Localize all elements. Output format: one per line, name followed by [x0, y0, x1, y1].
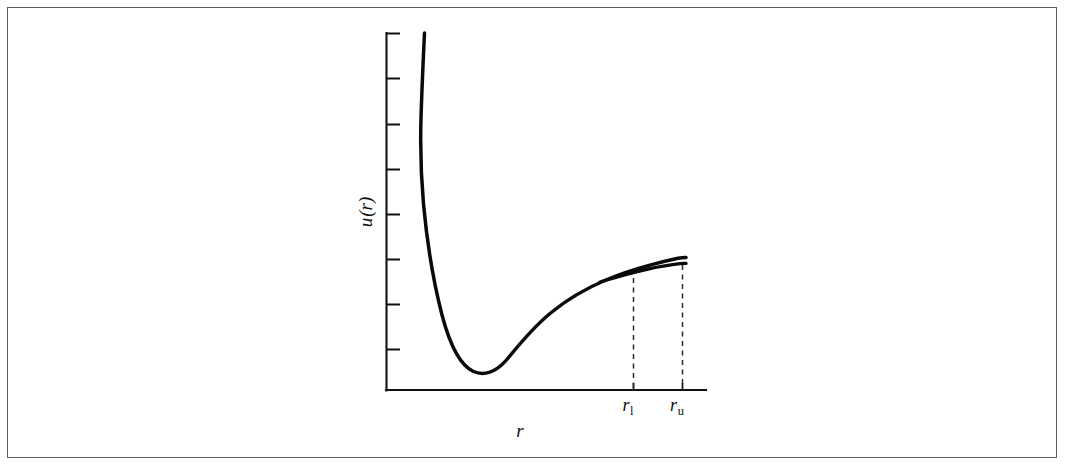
y-axis-label-group: u(r): [355, 197, 377, 228]
y-axis-label-u: u: [355, 218, 376, 228]
potential-energy-plot: u(r) r rl ru: [0, 0, 1067, 471]
x-axis-label: r: [516, 420, 524, 441]
x-axis-label-text: r: [516, 420, 524, 441]
axes-group: [386, 33, 706, 391]
y-axis-ticks: [387, 34, 400, 350]
figure-root: u(r) r rl ru: [0, 0, 1067, 471]
pair-potential-curve: [421, 33, 686, 373]
r-upper-subscript: u: [678, 404, 685, 418]
droplines-group: [634, 265, 683, 389]
curve-group: [421, 33, 686, 373]
y-axis-label-paren-close: ): [355, 197, 377, 204]
r-lower-subscript: l: [630, 404, 634, 418]
x-tick-label-r-lower: rl: [623, 395, 635, 418]
x-tick-label-r-upper: ru: [670, 395, 685, 418]
svg-text:u(r): u(r): [355, 197, 377, 228]
